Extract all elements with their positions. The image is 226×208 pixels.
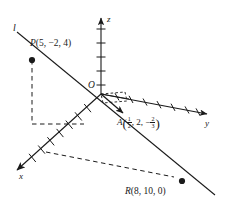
x-axis-ticks bbox=[29, 104, 91, 162]
z-axis-label: z bbox=[107, 15, 111, 24]
point-r-label: R(8, 10, 0) bbox=[125, 187, 166, 197]
y-axis-label: y bbox=[205, 119, 209, 128]
point-a-label: A(12, 2, −23) bbox=[117, 116, 160, 130]
point-a-name: A bbox=[117, 117, 123, 127]
point-p-label: PP(5, −2, 4)(5, −2, 4) bbox=[30, 39, 71, 49]
diagram-canvas bbox=[0, 0, 226, 208]
z-axis bbox=[97, 18, 106, 94]
point-a-x-fraction: 12 bbox=[127, 116, 132, 130]
point-r-marker bbox=[179, 178, 185, 184]
origin-label: O bbox=[88, 81, 95, 91]
x-axis-label: x bbox=[19, 172, 23, 181]
three-d-coordinate-diagram: l PP(5, −2, 4)(5, −2, 4) O z y x A(12, 2… bbox=[0, 0, 226, 208]
line-l bbox=[17, 32, 215, 195]
line-label-l: l bbox=[13, 23, 16, 33]
x-axis bbox=[17, 94, 101, 170]
point-p-marker bbox=[29, 57, 35, 63]
